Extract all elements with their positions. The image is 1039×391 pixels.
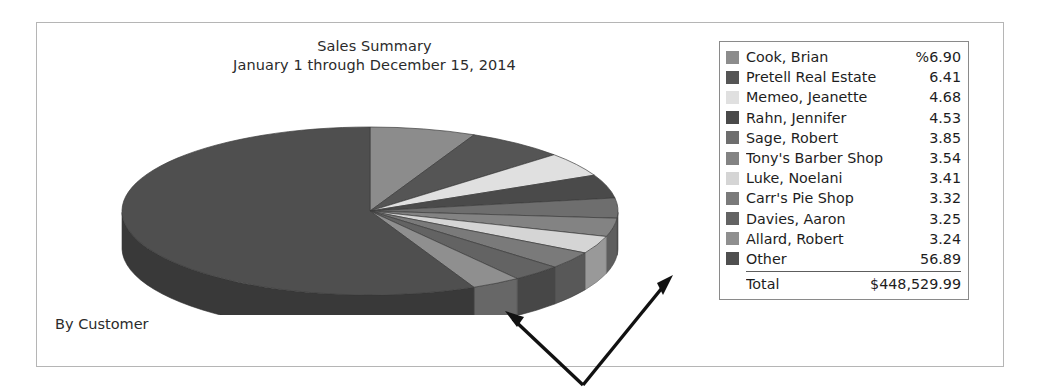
legend-color-swatch-icon xyxy=(726,192,739,205)
legend-color-swatch-icon xyxy=(726,91,739,104)
legend-item-value: 3.32 xyxy=(923,190,961,206)
pie-top-surface: Cook, BrianPretell Real EstateMemeo, Jea… xyxy=(122,127,618,295)
legend-color-swatch-icon xyxy=(726,111,739,124)
legend-item-value: 6.41 xyxy=(923,69,961,85)
legend-item[interactable]: Cook, Brian%6.90 xyxy=(726,47,961,67)
legend-item[interactable]: Luke, Noelani3.41 xyxy=(726,168,961,188)
legend-item-label: Luke, Noelani xyxy=(746,170,923,186)
legend-item-label: Tony's Barber Shop xyxy=(746,150,923,166)
legend-item-label: Other xyxy=(746,251,914,267)
legend-item[interactable]: Carr's Pie Shop3.32 xyxy=(726,188,961,208)
legend-item[interactable]: Sage, Robert3.85 xyxy=(726,128,961,148)
legend-color-swatch-icon xyxy=(726,71,739,84)
legend-item[interactable]: Rahn, Jennifer4.53 xyxy=(726,108,961,128)
arrow-left-shaft xyxy=(513,319,583,385)
legend-item[interactable]: Pretell Real Estate6.41 xyxy=(726,67,961,87)
legend-item[interactable]: Davies, Aaron3.25 xyxy=(726,209,961,229)
legend-color-swatch-icon xyxy=(726,172,739,185)
legend-item[interactable]: Other56.89 xyxy=(726,249,961,269)
legend-item-label: Davies, Aaron xyxy=(746,211,923,227)
legend-item-value: 56.89 xyxy=(914,251,961,267)
legend-item[interactable]: Allard, Robert3.24 xyxy=(726,229,961,249)
report-frame: Sales Summary January 1 through December… xyxy=(36,22,1004,367)
legend-item-value: %6.90 xyxy=(910,49,961,65)
legend-item[interactable]: Tony's Barber Shop3.54 xyxy=(726,148,961,168)
legend-item-label: Memeo, Jeanette xyxy=(746,89,923,105)
page-title: Sales Summary xyxy=(37,37,712,56)
legend-item-label: Rahn, Jennifer xyxy=(746,110,923,126)
legend-item-value: 4.68 xyxy=(923,89,961,105)
legend-total-label: Total xyxy=(746,276,864,292)
legend-item-label: Pretell Real Estate xyxy=(746,69,923,85)
legend-item-value: 4.53 xyxy=(923,110,961,126)
legend-item-label: Sage, Robert xyxy=(746,130,923,146)
legend-total-value: $448,529.99 xyxy=(864,276,961,292)
legend-item-value: 3.24 xyxy=(923,231,961,247)
chart-title-block: Sales Summary January 1 through December… xyxy=(37,37,712,75)
legend: Cook, Brian%6.90Pretell Real Estate6.41M… xyxy=(719,41,969,300)
legend-color-swatch-icon xyxy=(726,252,739,265)
legend-color-swatch-icon xyxy=(726,51,739,64)
legend-color-swatch-icon xyxy=(726,152,739,165)
legend-item-label: Allard, Robert xyxy=(746,231,923,247)
legend-item-value: 3.41 xyxy=(923,170,961,186)
pie-chart[interactable]: Cook, BrianPretell Real EstateMemeo, Jea… xyxy=(77,85,677,315)
legend-color-swatch-icon xyxy=(726,232,739,245)
legend-color-swatch-icon xyxy=(726,131,739,144)
legend-total-row: Total $448,529.99 xyxy=(746,271,961,295)
pie-chart-svg: Cook, BrianPretell Real EstateMemeo, Jea… xyxy=(77,85,677,315)
legend-color-swatch-icon xyxy=(726,212,739,225)
legend-rows: Cook, Brian%6.90Pretell Real Estate6.41M… xyxy=(726,47,961,269)
legend-item-value: 3.25 xyxy=(923,211,961,227)
legend-item[interactable]: Memeo, Jeanette4.68 xyxy=(726,87,961,107)
legend-item-label: Cook, Brian xyxy=(746,49,910,65)
page-subtitle: January 1 through December 15, 2014 xyxy=(37,56,712,75)
legend-item-label: Carr's Pie Shop xyxy=(746,190,923,206)
legend-item-value: 3.54 xyxy=(923,150,961,166)
grouping-label: By Customer xyxy=(55,316,149,332)
legend-item-value: 3.85 xyxy=(923,130,961,146)
